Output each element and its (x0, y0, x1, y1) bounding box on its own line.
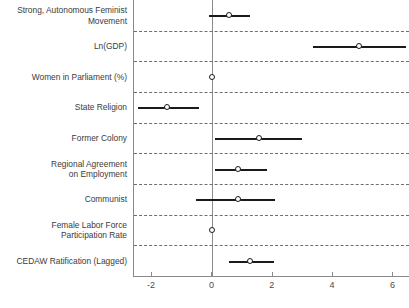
point-estimate-marker (164, 104, 170, 110)
category-label: Ln(GDP) (1, 41, 127, 51)
point-estimate-marker (356, 43, 362, 49)
category-label: Former Colony (1, 133, 127, 143)
category-label: CEDAW Ratification (Lagged) (1, 256, 127, 266)
x-tick-mark (211, 272, 212, 276)
zero-reference-line (212, 0, 213, 276)
point-estimate-marker (226, 12, 232, 18)
plot-area (133, 0, 409, 276)
row-separator (134, 123, 409, 124)
category-label-column: Strong, Autonomous Feminist MovementLn(G… (0, 0, 130, 276)
x-tick-mark (332, 272, 333, 276)
confidence-interval (215, 169, 267, 171)
row-separator (134, 31, 409, 32)
x-tick-label: -2 (147, 280, 155, 290)
x-tick-label: 4 (330, 280, 335, 290)
coefficient-plot: Strong, Autonomous Feminist MovementLn(G… (0, 0, 409, 308)
category-label: Female Labor Force Participation Rate (1, 220, 127, 240)
point-estimate-marker (209, 227, 215, 233)
category-label: Women in Parliament (%) (1, 72, 127, 82)
point-estimate-marker (247, 258, 253, 264)
row-separator (134, 184, 409, 185)
row-separator (134, 215, 409, 216)
x-tick-label: 0 (209, 280, 214, 290)
x-tick-mark (392, 272, 393, 276)
category-label: Regional Agreement on Employment (1, 159, 127, 179)
row-separator (134, 61, 409, 62)
x-axis-line (133, 276, 409, 277)
point-estimate-marker (209, 74, 215, 80)
category-label: Communist (1, 194, 127, 204)
x-tick-mark (272, 272, 273, 276)
row-separator (134, 245, 409, 246)
row-separator (134, 153, 409, 154)
x-tick-label: 6 (390, 280, 395, 290)
row-separator (134, 92, 409, 93)
point-estimate-marker (235, 166, 241, 172)
point-estimate-marker (256, 135, 262, 141)
category-label: Strong, Autonomous Feminist Movement (1, 5, 127, 25)
point-estimate-marker (235, 196, 241, 202)
x-axis: -20246 (133, 276, 409, 308)
x-tick-label: 2 (269, 280, 274, 290)
category-label: State Religion (1, 102, 127, 112)
x-tick-mark (151, 272, 152, 276)
